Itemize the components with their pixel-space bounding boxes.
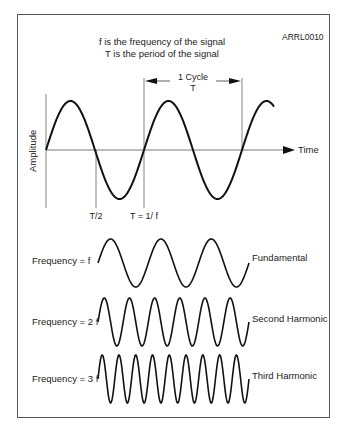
fundamental-name-label: Fundamental bbox=[252, 253, 307, 263]
third-harmonic-wave bbox=[98, 355, 249, 403]
cycle-arrow-left-icon bbox=[145, 78, 157, 84]
waveform-figure bbox=[0, 0, 346, 427]
cycle-label: 1 Cycle bbox=[178, 73, 208, 82]
header-line-1: f is the frequency of the signal bbox=[99, 37, 225, 47]
period-label: T = 1/ f bbox=[130, 212, 158, 221]
amplitude-label: Amplitude bbox=[28, 130, 38, 172]
cycle-period-label: T bbox=[190, 84, 196, 93]
fundamental-freq-label: Frequency = f bbox=[32, 256, 90, 266]
figure-id: ARRL0010 bbox=[282, 33, 324, 42]
cycle-arrow-right-icon bbox=[229, 78, 241, 84]
second-freq-label: Frequency = 2 f bbox=[32, 317, 98, 327]
second-name-label: Second Harmonic bbox=[252, 314, 328, 324]
third-freq-label: Frequency = 3 f bbox=[32, 374, 98, 384]
time-label: Time bbox=[298, 145, 319, 155]
half-period-label: T/2 bbox=[89, 212, 102, 221]
header-line-2: T is the period of the signal bbox=[105, 49, 219, 59]
fundamental-wave bbox=[98, 239, 249, 287]
second-harmonic-wave bbox=[98, 298, 249, 346]
third-name-label: Third Harmonic bbox=[252, 371, 317, 381]
time-axis-arrow-icon bbox=[283, 146, 295, 154]
